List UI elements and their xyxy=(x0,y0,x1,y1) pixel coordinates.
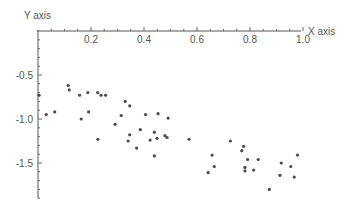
data-point xyxy=(78,94,81,97)
data-point xyxy=(53,110,56,113)
data-point xyxy=(155,137,158,140)
data-point xyxy=(86,91,89,94)
data-point xyxy=(99,94,102,97)
data-point xyxy=(243,169,246,172)
data-point xyxy=(187,138,190,141)
data-point xyxy=(229,139,232,142)
y-tick-label: -1.0 xyxy=(16,114,34,125)
data-point xyxy=(213,165,216,168)
y-tick-label: -1.5 xyxy=(16,158,34,169)
data-point xyxy=(124,100,127,103)
data-point xyxy=(296,153,299,156)
data-point xyxy=(257,158,260,161)
data-point xyxy=(293,175,296,178)
data-point xyxy=(153,131,156,134)
x-tick-label: 0.8 xyxy=(243,34,257,45)
y-axis-title: Y axis xyxy=(24,10,51,21)
data-point xyxy=(144,113,147,116)
data-point xyxy=(128,133,131,136)
data-point xyxy=(148,139,151,142)
data-point xyxy=(211,153,214,156)
data-point xyxy=(242,145,245,148)
data-point xyxy=(135,146,138,149)
data-point xyxy=(153,154,156,157)
data-point xyxy=(207,171,210,174)
data-point xyxy=(280,161,283,164)
data-point xyxy=(80,117,83,120)
data-point xyxy=(96,91,99,94)
data-point xyxy=(87,110,90,113)
data-point xyxy=(165,136,168,139)
data-point xyxy=(67,84,70,87)
data-point xyxy=(128,104,131,107)
data-point xyxy=(96,138,99,141)
x-tick-label: 0.2 xyxy=(84,34,98,45)
data-point xyxy=(268,188,271,191)
data-point xyxy=(114,123,117,126)
data-point xyxy=(240,149,243,152)
data-point xyxy=(104,94,107,97)
data-point xyxy=(37,94,40,97)
y-tick-label: -0.5 xyxy=(16,70,34,81)
x-tick-label: 0.6 xyxy=(190,34,204,45)
x-axis-title: X axis xyxy=(308,26,335,37)
data-point xyxy=(45,113,48,116)
data-point xyxy=(120,114,123,117)
data-point xyxy=(156,112,159,115)
data-point xyxy=(289,165,292,168)
data-point xyxy=(68,88,71,91)
x-tick-label: 0.4 xyxy=(137,34,151,45)
data-point xyxy=(127,139,130,142)
scatter-plot: 0.20.40.60.81.0-0.5-1.0-1.5 X axis Y axi… xyxy=(0,0,347,210)
axes: 0.20.40.60.81.0-0.5-1.0-1.5 xyxy=(16,27,311,198)
data-point xyxy=(139,128,142,131)
data-point xyxy=(246,158,249,161)
data-point xyxy=(243,166,246,169)
data-point xyxy=(252,168,255,171)
data-point xyxy=(167,117,170,120)
data-points xyxy=(37,84,299,191)
data-point xyxy=(278,174,281,177)
